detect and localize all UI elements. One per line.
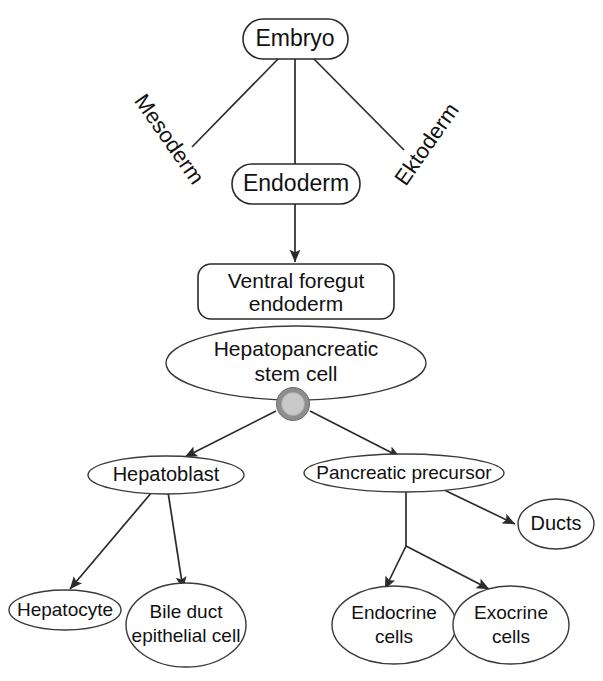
cell-marker-inner-body bbox=[282, 393, 305, 416]
branch-label-mesoderm: Mesoderm bbox=[129, 89, 209, 188]
edge-junction-endocrine bbox=[385, 546, 406, 589]
node-ducts-label: Ducts bbox=[530, 512, 581, 534]
node-bile-duct-epithelial-cell-line1: Bile duct bbox=[150, 601, 224, 622]
node-bile-duct-epithelial-cell[interactable]: Bile duct epithelial cell bbox=[126, 583, 246, 667]
node-hepatocyte-label: Hepatocyte bbox=[17, 599, 113, 620]
branch-label-ektoderm: Ektoderm bbox=[389, 98, 463, 189]
node-ducts[interactable]: Ducts bbox=[518, 499, 594, 549]
lineage-diagram: Mesoderm Ektoderm Embryo Endoderm Ventra… bbox=[0, 0, 603, 681]
edge-junction-exocrine bbox=[406, 546, 489, 589]
node-exocrine-cells[interactable]: Exocrine cells bbox=[453, 586, 569, 664]
node-ventral-foregut-endoderm-line1: Ventral foregut bbox=[228, 269, 365, 292]
node-exocrine-cells-line2: cells bbox=[492, 626, 530, 647]
edge-hepatoblast-hepatocyte bbox=[70, 492, 152, 589]
node-endocrine-cells[interactable]: Endocrine cells bbox=[332, 586, 456, 664]
edge-group-hepatoblast bbox=[70, 492, 183, 589]
node-bile-duct-epithelial-cell-line2: epithelial cell bbox=[132, 625, 241, 646]
edge-stemcell-hepatoblast bbox=[185, 411, 276, 457]
node-endocrine-cells-line2: cells bbox=[375, 626, 413, 647]
edge-group-embryo bbox=[192, 57, 404, 165]
node-embryo[interactable]: Embryo bbox=[243, 19, 348, 59]
branch-label-mesoderm-text: Mesoderm bbox=[129, 89, 209, 188]
hepatopancreatic-stem-cell-marker bbox=[277, 388, 310, 421]
node-endoderm-label: Endoderm bbox=[243, 170, 349, 196]
node-embryo-label: Embryo bbox=[255, 25, 334, 51]
node-hepatoblast-label: Hepatoblast bbox=[113, 463, 220, 485]
node-hepatopancreatic-stem-cell-line2: stem cell bbox=[255, 362, 338, 385]
edge-stemcell-pancreatic-precursor bbox=[310, 411, 400, 457]
node-ventral-foregut-endoderm-line2: endoderm bbox=[249, 292, 344, 315]
node-hepatocyte[interactable]: Hepatocyte bbox=[9, 590, 121, 630]
edge-pancreatic-precursor-ducts bbox=[440, 488, 515, 524]
node-endocrine-cells-line1: Endocrine bbox=[351, 602, 437, 623]
edge-embryo-mesoderm bbox=[192, 57, 280, 147]
node-endoderm[interactable]: Endoderm bbox=[232, 164, 360, 204]
node-hepatopancreatic-stem-cell-line1: Hepatopancreatic bbox=[214, 337, 379, 360]
diagram-canvas: Mesoderm Ektoderm Embryo Endoderm Ventra… bbox=[0, 0, 603, 681]
node-endocrine-cells-shape bbox=[332, 586, 456, 664]
node-pancreatic-precursor[interactable]: Pancreatic precursor bbox=[304, 454, 504, 492]
branch-label-ektoderm-text: Ektoderm bbox=[389, 98, 463, 189]
node-pancreatic-precursor-label: Pancreatic precursor bbox=[316, 462, 492, 483]
node-ventral-foregut-endoderm[interactable]: Ventral foregut endoderm bbox=[198, 264, 394, 319]
node-exocrine-cells-shape bbox=[453, 586, 569, 664]
edge-hepatoblast-bile-duct bbox=[168, 492, 183, 589]
edge-embryo-ektoderm bbox=[312, 57, 404, 150]
node-hepatoblast[interactable]: Hepatoblast bbox=[88, 456, 244, 494]
node-exocrine-cells-line1: Exocrine bbox=[474, 602, 548, 623]
